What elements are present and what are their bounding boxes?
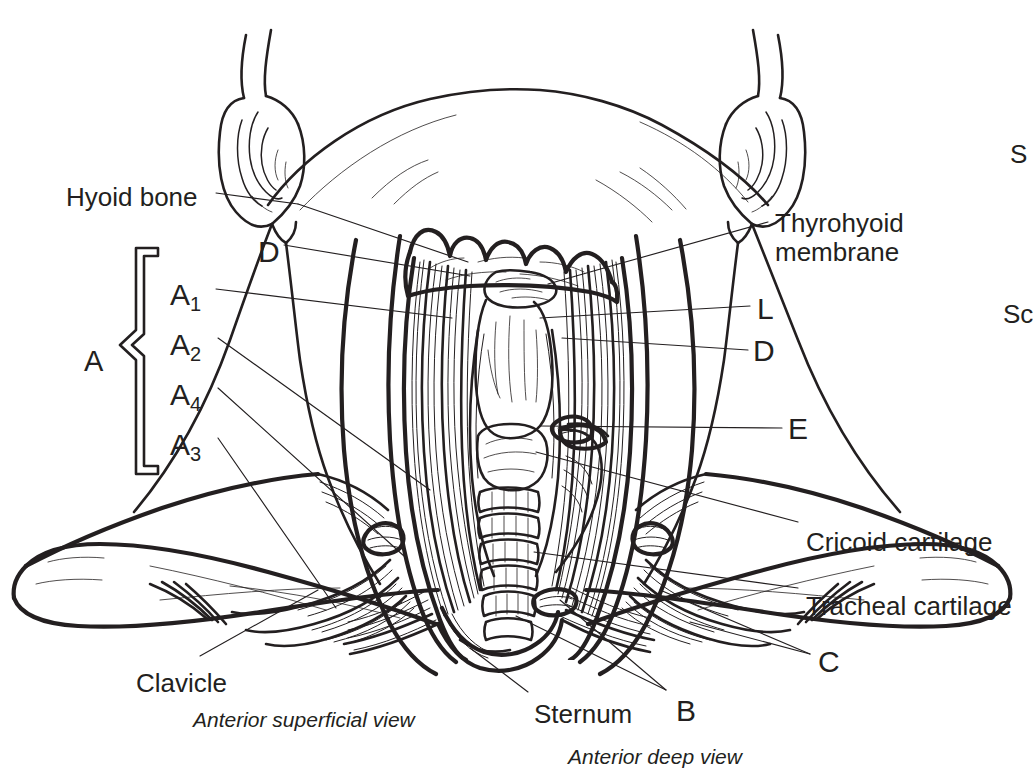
key-code-A4-letter: A <box>170 378 190 411</box>
key-code-D-right: D <box>753 334 775 368</box>
key-code-A1: A1 <box>170 278 201 315</box>
key-code-A4: A4 <box>170 378 201 415</box>
key-code-B: B <box>676 694 696 728</box>
key-code-A2: A2 <box>170 328 201 365</box>
caption-anterior-superficial-view: Anterior superficial view <box>193 708 415 732</box>
clipped-label-sc: Sc <box>1003 300 1033 329</box>
label-sternum: Sternum <box>534 700 632 729</box>
caption-anterior-deep-view: Anterior deep view <box>568 745 742 769</box>
label-thyrohyoid-membrane: Thyrohyoidmembrane <box>775 209 904 266</box>
key-code-A3-letter: A <box>170 428 190 461</box>
key-code-A1-subscript: 1 <box>190 293 201 315</box>
key-code-A4-subscript: 4 <box>190 393 201 415</box>
label-cricoid-cartilage: Cricoid cartilage <box>806 528 992 557</box>
key-code-C: C <box>818 645 840 679</box>
thyrohyoid-line-1: Thyrohyoid <box>775 208 904 238</box>
key-code-A: A <box>84 345 103 377</box>
label-hyoid-bone: Hyoid bone <box>66 183 198 212</box>
key-code-D-left: D <box>258 235 280 269</box>
label-clavicle: Clavicle <box>136 669 227 698</box>
key-code-A2-letter: A <box>170 328 190 361</box>
key-code-A2-subscript: 2 <box>190 343 201 365</box>
key-code-L: L <box>757 292 774 326</box>
label-tracheal-cartilage: Tracheal cartilage <box>806 592 1012 621</box>
thyrohyoid-line-2: membrane <box>775 237 899 267</box>
key-code-A3: A3 <box>170 428 201 465</box>
clipped-label-s: S <box>1010 140 1027 169</box>
key-code-E: E <box>788 412 808 446</box>
key-code-A3-subscript: 3 <box>190 443 201 465</box>
key-code-A1-letter: A <box>170 278 190 311</box>
